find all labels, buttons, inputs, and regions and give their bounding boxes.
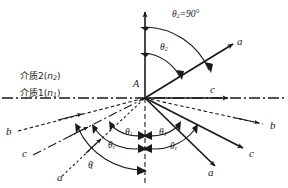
medium-label-upper: 介质2(n2) [20,72,61,82]
theta2-sub: 2 [165,46,168,52]
ray-b-left-text: b [6,125,12,137]
ray-label-c-right: c [249,148,254,159]
ray-c-left-text: c [22,147,27,159]
theta1-right-sub: 1 [164,131,167,137]
angle-label-thetac-left: θc [108,141,115,151]
ray-c-right-text: c [249,147,254,159]
angle-label-theta1-left: θ1 [125,128,133,138]
ray-b-reflected [145,98,263,124]
angle-label-thetac-right: θc [170,142,177,152]
ray-a-reflected [145,98,215,166]
angle-label-theta2-max: θ2=90° [172,10,199,20]
vertex-label-text: A [133,78,139,89]
ray-label-c-left: c [22,148,27,159]
ray-a-upper-right-text: a [237,35,243,47]
arc-theta2-max [140,27,213,73]
arc-theta2 [140,53,184,80]
vertex-label-A: A [133,79,139,89]
thetac-left-sub: c [113,144,116,150]
medium-lower-prefix: 介质1( [20,88,47,98]
medium-upper-suffix: ) [57,71,61,81]
theta1-left-sub: 1 [130,131,133,137]
angle-label-theta1-prime: θ′1 [88,161,93,171]
ray-a-refracted [145,44,233,98]
figure-canvas: θ2=90° θ2 θ1 θ1 θc θc θ′1 A a c b b c c … [0,0,288,188]
ray-label-a-bottom-left: a [57,172,63,183]
angle-label-theta2: θ2 [160,43,168,53]
medium-label-lower: 介质1(n1) [20,89,61,99]
ray-c-reflected [145,98,243,148]
ray-label-c-interface: c [210,84,215,95]
ray-label-b-left: b [6,126,12,137]
ray-c-interface-text: c [210,83,215,95]
ray-label-a-bottom-right: a [208,167,214,178]
theta1-prime-sub: 1 [90,164,93,170]
theta2-max-value: =90° [180,9,200,19]
ray-b-right-text: b [270,119,276,131]
medium-upper-prefix: 介质2( [20,71,47,81]
ray-a-bottom-right-text: a [208,166,214,178]
angle-label-theta1-right: θ1 [159,128,167,138]
ray-a-bottom-left-text: a [57,171,63,183]
ray-label-a-upper-right: a [237,36,243,47]
ray-label-b-right: b [270,120,276,131]
thetac-right-sub: c [175,145,178,151]
medium-lower-suffix: ) [57,88,61,98]
